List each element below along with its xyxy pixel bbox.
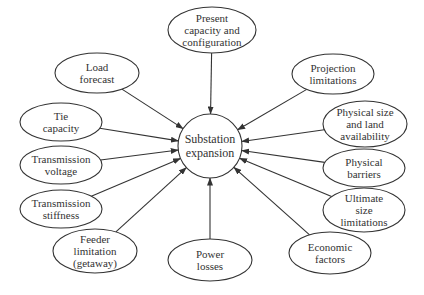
factor-node-ultimate-size: Ultimatesizelimitations [323,188,405,232]
node-label-line: availability [340,130,390,142]
node-label-line: limitation [74,245,117,257]
node-label-line: Transmission [32,197,91,209]
arrow-present-capacity-to-center [211,53,212,114]
node-label-line: losses [197,260,223,272]
factor-node-feeder-limitation: Feederlimitation(getaway) [53,229,137,273]
node-label-line: expansion [186,146,235,160]
node-label-line: Transmission [32,153,91,165]
arrow-economic-factors-to-center [234,167,310,234]
node-label-line: factors [315,253,345,265]
node-label-line: configuration [182,36,242,48]
node-label-line: size [355,204,372,216]
node-label-line: Power [196,248,224,260]
factor-node-transmission-stiffness: Transmissionstiffness [20,190,102,228]
arrow-transmission-stiffness-to-center [91,158,180,196]
node-label-line: Present [196,12,228,24]
node-label-line: Tie [54,110,68,122]
arrow-physical-size-to-center [242,130,325,142]
node-label-line: limitations [340,216,387,228]
center-node-substation-expansion: Substationexpansion [178,114,242,178]
arrow-load-forecast-to-center [122,89,183,129]
node-label-line: Projection [310,62,356,74]
factor-node-economic-factors: Economicfactors [289,232,371,274]
node-label-line: Ultimate [345,192,384,204]
node-label-line: forecast [80,73,115,85]
factor-node-physical-barriers: Physicalbarriers [323,149,405,187]
arrow-ultimate-size-to-center [240,158,332,196]
arrow-transmission-voltage-to-center [101,150,179,160]
arrow-tie-capacity-to-center [100,128,179,141]
node-label-line: (getaway) [73,257,117,270]
factor-node-present-capacity: Presentcapacity andconfiguration [168,7,256,53]
factor-node-projection-limitations: Projectionlimitations [292,54,374,94]
factor-node-load-forecast: Loadforecast [55,53,139,93]
factor-node-physical-size: Physical sizeand landavailability [323,101,407,147]
factor-node-tie-capacity: Tiecapacity [20,103,102,141]
node-label-line: limitations [309,74,356,86]
node-label-line: voltage [45,165,77,177]
node-label-line: and land [346,118,384,130]
arrow-physical-barriers-to-center [242,151,325,163]
node-label-line: Physical size [336,106,393,118]
substation-expansion-diagram: Presentcapacity andconfigurationProjecti… [0,0,424,295]
arrow-feeder-limitation-to-center [116,168,186,232]
node-label-line: barriers [347,168,381,180]
node-label-line: capacity and [184,24,240,36]
factor-node-transmission-voltage: Transmissionvoltage [20,146,102,184]
node-label-line: Physical [345,156,382,168]
node-label-line: Feeder [80,233,110,245]
node-label-line: capacity [43,122,80,134]
node-label-line: Substation [185,132,236,146]
node-label-line: stiffness [43,209,79,221]
factor-node-power-losses: Powerlosses [168,239,252,281]
arrow-projection-limitations-to-center [238,89,307,129]
node-label-line: Economic [308,241,353,253]
node-label-line: Load [86,61,109,73]
